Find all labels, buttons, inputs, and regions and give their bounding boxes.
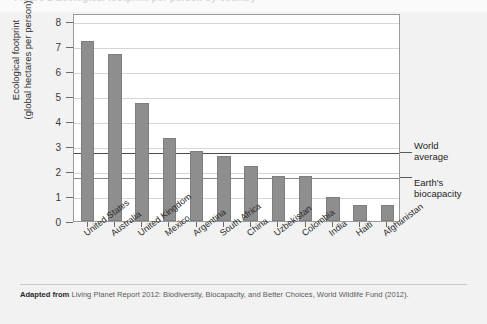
figure-panel: Figure 1 Ecological footprint per person… (0, 0, 487, 324)
plot-area (73, 14, 400, 222)
annotation-line-1: Earth's (414, 177, 462, 188)
y-axis-tick-mark (66, 197, 73, 198)
y-axis-tick-label: 7 (55, 41, 61, 52)
annotation-line-2: average (414, 151, 448, 162)
gridline (74, 173, 399, 174)
y-axis-tick-mark (66, 172, 73, 173)
footer-divider (20, 284, 467, 285)
annotation-leader-line (400, 177, 412, 178)
y-axis: 012345678 (0, 14, 73, 222)
y-axis-tick-mark (66, 97, 73, 98)
y-axis-tick-label: 2 (55, 166, 61, 177)
y-axis-tick-mark (66, 47, 73, 48)
y-axis-tick-label: 4 (55, 116, 61, 127)
y-axis-tick-label: 6 (55, 66, 61, 77)
annotation-line-1: World (414, 140, 448, 151)
y-axis-tick-label: 1 (55, 191, 61, 202)
cut-off-title-text: Figure 1 Ecological footprint per person… (14, 0, 256, 3)
gridline (74, 23, 399, 24)
reference-line (74, 153, 399, 154)
bar (81, 41, 95, 221)
y-axis-tick-mark (66, 22, 73, 23)
source-caption: Adapted from Living Planet Report 2012: … (20, 290, 472, 300)
reference-line-annotation: Worldaverage (414, 140, 448, 162)
cut-off-title-strip: Figure 1 Ecological footprint per person… (0, 0, 487, 12)
y-axis-tick-mark (66, 147, 73, 148)
gridline (74, 73, 399, 74)
source-caption-lead: Adapted from (20, 290, 69, 299)
gridline (74, 123, 399, 124)
source-caption-text: Living Planet Report 2012: Biodiversity,… (71, 290, 408, 299)
gridline (74, 48, 399, 49)
annotation-leader-line (400, 152, 412, 153)
bar (108, 54, 122, 221)
gridline (74, 98, 399, 99)
y-axis-tick-mark (66, 222, 73, 223)
annotation-line-2: biocapacity (414, 188, 462, 199)
reference-line (74, 178, 399, 179)
bar (353, 205, 367, 221)
bar (381, 205, 395, 221)
y-axis-tick-label: 0 (55, 217, 61, 228)
bar (135, 103, 149, 221)
y-axis-tick-label: 8 (55, 16, 61, 27)
y-axis-tick-label: 3 (55, 141, 61, 152)
y-axis-tick-mark (66, 72, 73, 73)
y-axis-tick-label: 5 (55, 91, 61, 102)
reference-line-annotation: Earth'sbiocapacity (414, 177, 462, 199)
y-axis-tick-mark (66, 122, 73, 123)
bar (190, 151, 204, 221)
bar (272, 176, 286, 221)
gridline (74, 148, 399, 149)
